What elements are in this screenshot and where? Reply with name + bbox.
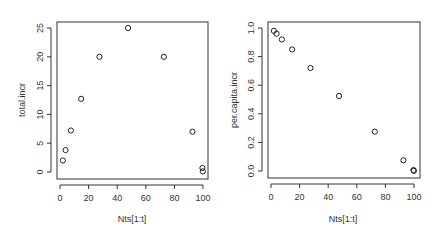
data-point (372, 129, 377, 134)
x-axis: 020406080100 (57, 185, 210, 203)
x-tick-label: 40 (112, 193, 122, 203)
plot-total-incr: 020406080100 0510152025 Nts[1:t] total.i… (17, 22, 211, 224)
plot-frame (268, 22, 420, 178)
x-tick-label: 100 (195, 193, 210, 203)
data-point (190, 129, 195, 134)
y-tick-label: 20 (35, 52, 45, 62)
data-point (63, 148, 68, 153)
x-tick-label: 20 (84, 193, 94, 203)
y-tick-label: 0.8 (246, 50, 256, 63)
data-point (79, 96, 84, 101)
y-axis: 0510152025 (35, 23, 51, 175)
x-axis-label: Nts[1:t] (329, 214, 358, 224)
y-tick-label: 5 (35, 141, 45, 146)
data-point (308, 65, 313, 70)
y-axis: 0.00.20.40.60.81.0 (246, 22, 262, 178)
data-point (336, 93, 341, 98)
data-point (290, 47, 295, 52)
y-tick-label: 0.0 (246, 165, 256, 178)
y-tick-label: 0.4 (246, 108, 256, 121)
data-point (60, 158, 65, 163)
x-tick-label: 0 (57, 193, 62, 203)
y-axis-label: per.capita.incr (229, 72, 239, 128)
data-point (97, 54, 102, 59)
x-tick-label: 80 (169, 193, 179, 203)
y-tick-label: 10 (35, 109, 45, 119)
x-tick-label: 60 (141, 193, 151, 203)
data-point (401, 158, 406, 163)
x-axis-label: Nts[1:t] (118, 214, 147, 224)
data-points (60, 25, 205, 174)
y-tick-label: 25 (35, 23, 45, 33)
data-point (68, 128, 73, 133)
y-axis-label: total.incr (17, 83, 27, 117)
data-point (161, 54, 166, 59)
data-point (279, 37, 284, 42)
x-tick-label: 60 (352, 192, 362, 202)
y-tick-label: 1.0 (246, 22, 256, 35)
x-tick-label: 80 (380, 192, 390, 202)
y-tick-label: 0.6 (246, 79, 256, 92)
data-points (271, 28, 416, 173)
data-point (125, 25, 130, 30)
y-tick-label: 0.2 (246, 136, 256, 149)
plot-per-capita-incr: 020406080100 0.00.20.40.60.81.0 Nts[1:t]… (229, 22, 422, 224)
x-tick-label: 100 (406, 192, 421, 202)
figure: 020406080100 0510152025 Nts[1:t] total.i… (0, 0, 437, 234)
y-tick-label: 0 (35, 169, 45, 174)
x-axis: 020406080100 (268, 184, 421, 202)
data-point (200, 169, 205, 174)
x-tick-label: 20 (295, 192, 305, 202)
y-tick-label: 15 (35, 81, 45, 91)
x-tick-label: 0 (268, 192, 273, 202)
x-tick-label: 40 (323, 192, 333, 202)
